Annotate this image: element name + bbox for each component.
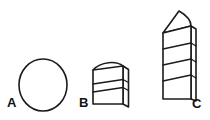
figure-label-a: A (7, 96, 16, 109)
shape-c-stacked-block (163, 11, 196, 101)
shape-b-side-face (123, 66, 129, 107)
figure-panel: A B C (0, 0, 210, 120)
figure-label-b: B (79, 96, 88, 109)
figure-label-c: C (192, 97, 201, 110)
shape-b-stacked-block (93, 63, 129, 107)
shape-a-circle (19, 59, 67, 111)
figure-drawing (0, 0, 210, 120)
circle-outline (19, 59, 67, 111)
